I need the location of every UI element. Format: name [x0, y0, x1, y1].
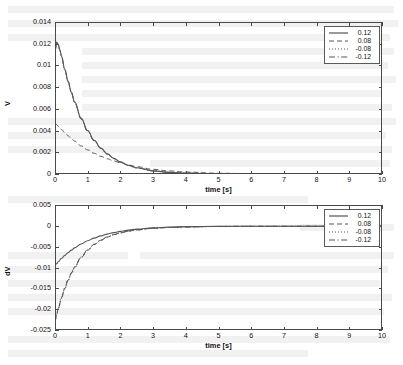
legend-item: 0.08 — [328, 220, 376, 228]
legend-line-sample — [328, 220, 349, 228]
curve-layer — [0, 0, 403, 365]
legend-item: -0.08 — [328, 228, 376, 236]
legend-label: -0.08 — [352, 228, 371, 236]
legend-label: 0.12 — [352, 212, 371, 220]
legend-line-sample — [328, 236, 349, 244]
legend-line-sample — [328, 212, 349, 220]
legend-label: -0.12 — [352, 236, 371, 244]
legend: 0.120.08-0.08-0.12 — [324, 209, 380, 247]
legend-label: 0.08 — [352, 220, 371, 228]
legend-item: -0.12 — [328, 236, 376, 244]
legend-line-sample — [328, 228, 349, 236]
legend-item: 0.12 — [328, 212, 376, 220]
